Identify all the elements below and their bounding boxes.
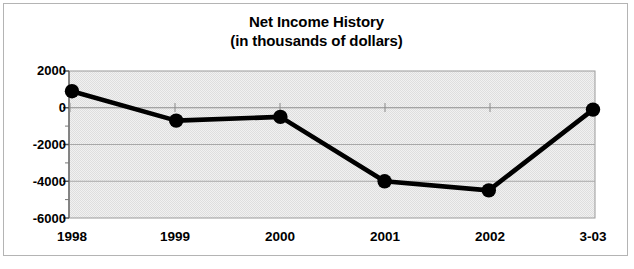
chart-figure: Net Income History (in thousands of doll… <box>3 3 628 256</box>
chart-plot-region: 2000 0 -2000 -4000 -6000 1998 1999 2000 … <box>4 4 629 257</box>
x-tick-label-2000: 2000 <box>235 230 325 244</box>
x-tick-label-1998: 1998 <box>27 230 117 244</box>
x-tick-label-3-03: 3-03 <box>548 230 634 244</box>
x-tick-label-2002: 2002 <box>445 230 535 244</box>
x-axis-tick-labels: 1998 1999 2000 2001 2002 3-03 <box>4 4 629 257</box>
x-tick-label-2001: 2001 <box>340 230 430 244</box>
x-tick-label-1999: 1999 <box>130 230 220 244</box>
